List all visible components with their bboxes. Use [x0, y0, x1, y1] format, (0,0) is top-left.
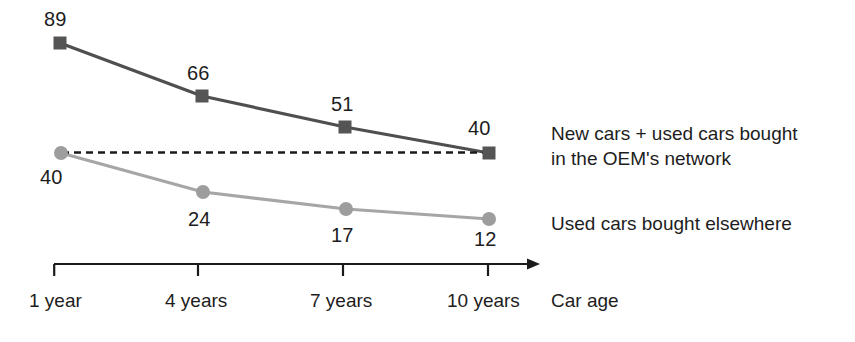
data-point-marker-square [483, 147, 496, 160]
x-tick-label-2: 4 years [165, 290, 227, 312]
data-point-marker-circle [196, 185, 210, 199]
data-point-marker-square [196, 90, 209, 103]
data-point-marker-circle [339, 202, 353, 216]
value-label-series-b-3: 17 [331, 224, 354, 247]
chart-container: 89 66 51 40 40 24 17 12 1 year 4 years 7… [0, 0, 855, 342]
chart-plot-area [0, 0, 855, 342]
value-label-series-a-3: 51 [331, 93, 354, 116]
x-tick-label-3: 7 years [310, 290, 372, 312]
x-tick-label-4: 10 years [447, 290, 520, 312]
value-label-series-a-4: 40 [468, 117, 491, 140]
value-label-series-a-2: 66 [187, 62, 210, 85]
x-axis-arrow-icon [527, 259, 540, 270]
series-line-new-and-oem-used [60, 43, 489, 153]
x-tick-label-1: 1 year [29, 290, 82, 312]
value-label-series-a-1: 89 [44, 8, 67, 31]
data-point-marker-square [339, 121, 352, 134]
series-line-used-elsewhere [61, 153, 489, 219]
data-point-marker-square [54, 37, 67, 50]
data-point-marker-circle [54, 146, 68, 160]
legend-entry-new-and-oem-used: New cars + used cars bought in the OEM's… [551, 121, 798, 171]
data-point-marker-circle [482, 212, 496, 226]
value-label-series-b-1: 40 [40, 166, 63, 189]
legend-entry-used-elsewhere: Used cars bought elsewhere [551, 211, 792, 236]
value-label-series-b-4: 12 [474, 228, 497, 251]
x-axis-title: Car age [551, 290, 619, 312]
value-label-series-b-2: 24 [188, 208, 211, 231]
